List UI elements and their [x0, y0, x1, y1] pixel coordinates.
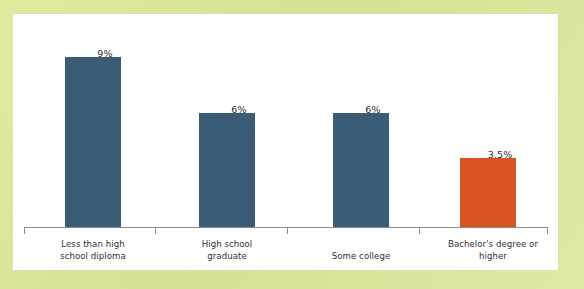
x-axis-label-line1: High school	[202, 239, 253, 249]
x-axis-label-less-than-high-school: Less than high school diploma	[33, 239, 153, 262]
x-axis-label-line2: higher	[425, 251, 561, 263]
x-axis-label-line2: school diploma	[33, 251, 153, 263]
x-axis-tick-0	[24, 228, 25, 234]
bar-chart: 9% 6% 6% 3.5% Less than high school dipl…	[13, 14, 558, 270]
x-axis-line	[24, 227, 548, 228]
bar-some-college	[333, 113, 389, 228]
x-axis-label-high-school-graduate: High school graduate	[167, 239, 287, 262]
chart-card: 9% 6% 6% 3.5% Less than high school dipl…	[13, 14, 558, 270]
image-mat: 9% 6% 6% 3.5% Less than high school dipl…	[0, 0, 584, 289]
bar-bachelors-or-higher	[460, 158, 516, 228]
x-axis-tick-3	[419, 228, 420, 234]
x-axis-label-line2: graduate	[167, 251, 287, 263]
x-axis-label-line1: Bachelor's degree or	[448, 239, 538, 249]
x-axis-label-line1: Some college	[332, 251, 391, 261]
x-axis-tick-1	[155, 228, 156, 234]
x-axis-label-line1: Less than high	[61, 239, 124, 249]
bar-high-school-graduate	[199, 113, 255, 228]
x-axis-label-some-college: Some college	[301, 251, 421, 263]
x-axis-label-bachelors-or-higher: Bachelor's degree or higher	[425, 239, 561, 262]
x-axis-tick-4	[547, 228, 548, 234]
bar-less-than-high-school	[65, 57, 121, 228]
x-axis-tick-2	[287, 228, 288, 234]
